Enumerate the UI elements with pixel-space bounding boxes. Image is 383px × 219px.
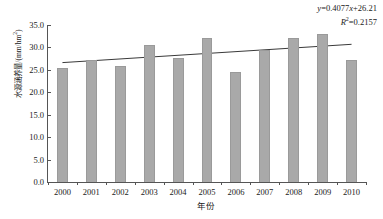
x-axis-tick-label: 2000 <box>54 187 71 197</box>
y-axis-tick-label: 15.0 <box>29 110 48 120</box>
x-axis-tick-label: 2002 <box>112 187 129 197</box>
x-axis-tick-label: 2010 <box>343 187 360 197</box>
equation-body: =0.4077 <box>321 3 349 13</box>
bar <box>346 60 357 182</box>
bar <box>288 38 299 182</box>
y-axis-tick-label: 25.0 <box>29 65 48 75</box>
x-axis-tick-mark <box>337 182 338 185</box>
bar <box>317 34 328 182</box>
regression-r-squared: R2=0.2157 <box>317 14 377 28</box>
x-axis-tick-mark <box>308 182 309 185</box>
y-axis-tick-label: 35.0 <box>29 20 48 30</box>
x-axis-title: 年份 <box>47 199 365 211</box>
bar <box>259 50 270 182</box>
x-axis-tick-mark <box>193 182 194 185</box>
x-axis-tick-label: 2009 <box>314 187 331 197</box>
x-axis-tick-label: 2008 <box>285 187 302 197</box>
plot-area: 0.05.010.015.020.025.030.035.02000200120… <box>47 25 366 183</box>
x-axis-tick-label: 2001 <box>83 187 100 197</box>
x-axis-tick-mark <box>48 182 49 185</box>
x-axis-tick-mark <box>164 182 165 185</box>
equation-suffix: +26.21 <box>353 3 377 13</box>
x-axis-tick-mark <box>221 182 222 185</box>
x-axis-tick-mark <box>77 182 78 185</box>
bar <box>173 58 184 182</box>
x-axis-tick-label: 2003 <box>141 187 158 197</box>
x-axis-tick-mark <box>106 182 107 185</box>
bar <box>230 72 241 182</box>
y-axis-tick-label: 30.0 <box>29 42 48 52</box>
regression-equation: y=0.4077x+26.21 <box>317 3 377 14</box>
y-axis-tick-label: 5.0 <box>33 155 48 165</box>
bar <box>202 38 213 182</box>
bar <box>115 66 126 182</box>
y-axis-tick-label: 0.0 <box>33 177 48 187</box>
y-axis-title: 水源涵养量/(mm/hm2) <box>12 0 23 139</box>
x-axis-tick-mark <box>250 182 251 185</box>
bar <box>144 45 155 182</box>
chart-figure: 水源涵养量/(mm/hm2) 0.05.010.015.020.025.030.… <box>0 0 383 219</box>
regression-annotation: y=0.4077x+26.21 R2=0.2157 <box>317 3 377 28</box>
x-axis-tick-label: 2006 <box>227 187 244 197</box>
y-axis-title-text: 水源涵养量/(mm/hm <box>14 35 23 98</box>
x-axis-tick-label: 2004 <box>170 187 187 197</box>
y-axis-tick-label: 20.0 <box>29 87 48 97</box>
y-axis-title-superscript: 2 <box>12 32 18 35</box>
bar <box>86 60 97 182</box>
x-axis-tick-label: 2005 <box>199 187 216 197</box>
y-axis-title-tail: ) <box>14 29 23 32</box>
x-axis-tick-label: 2007 <box>256 187 273 197</box>
r-value: =0.2157 <box>349 17 377 27</box>
x-axis-tick-mark <box>135 182 136 185</box>
x-axis-tick-mark <box>279 182 280 185</box>
y-axis-tick-label: 10.0 <box>29 132 48 142</box>
x-axis-tick-mark <box>366 182 367 185</box>
bar <box>57 68 68 182</box>
